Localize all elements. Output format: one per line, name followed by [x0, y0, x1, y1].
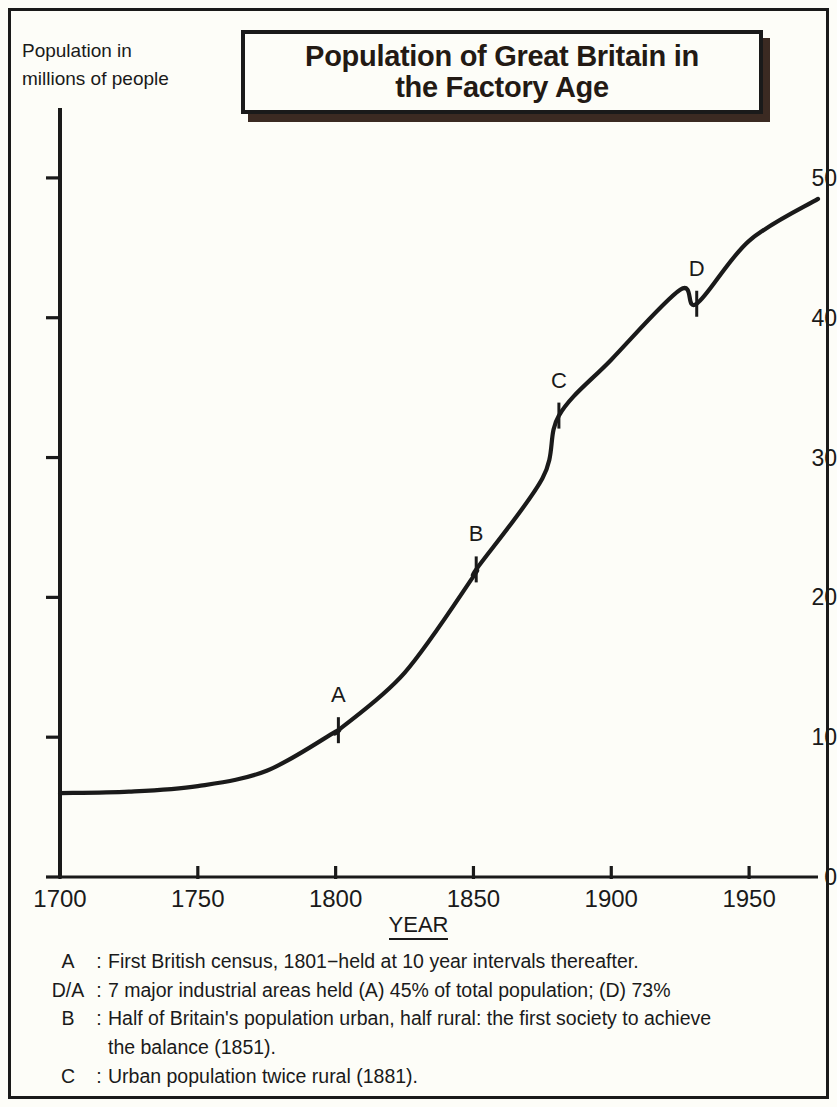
y-axis-ticks [46, 178, 60, 877]
note-text: First British census, 1801−held at 10 ye… [108, 948, 816, 976]
x-axis-tick-label: 1950 [704, 885, 794, 913]
note-key: A [46, 948, 90, 976]
x-axis-tick-label: 1700 [15, 885, 105, 913]
population-curve [60, 199, 818, 793]
y-axis-tick-label: 40 [789, 305, 837, 332]
y-axis-tick-label: 30 [789, 445, 837, 472]
annotation-label-c: C [544, 368, 574, 394]
x-axis-tick-label: 1900 [566, 885, 656, 913]
y-axis-tick-label: 50 [789, 165, 837, 192]
annotation-label-a: A [323, 682, 353, 708]
note-key: B [46, 1005, 90, 1033]
x-axis-tick-label: 1850 [428, 885, 518, 913]
note-text: the balance (1851). [108, 1034, 816, 1062]
note-colon: : [90, 1005, 108, 1033]
x-axis-title: YEAR [0, 912, 837, 938]
note-row: A:First British census, 1801−held at 10 … [46, 948, 816, 976]
x-axis-tick-label: 1800 [291, 885, 381, 913]
note-colon: : [90, 948, 108, 976]
chart-notes: A:First British census, 1801−held at 10 … [46, 948, 816, 1091]
population-line-chart [0, 0, 837, 940]
note-key: C [46, 1063, 90, 1091]
note-text: 7 major industrial areas held (A) 45% of… [108, 977, 816, 1005]
note-colon: : [90, 977, 108, 1005]
note-key: D/A [46, 977, 90, 1005]
annotation-label-d: D [682, 256, 712, 282]
note-colon: : [90, 1063, 108, 1091]
note-row: D/A:7 major industrial areas held (A) 45… [46, 977, 816, 1005]
note-text: Urban population twice rural (1881). [108, 1063, 816, 1091]
note-row: the balance (1851). [46, 1034, 816, 1062]
y-axis-tick-label: 10 [789, 724, 837, 751]
y-axis-tick-label: 0 [789, 864, 837, 891]
chart-page: Population of Great Britain in the Facto… [0, 0, 837, 1107]
note-text: Half of Britain's population urban, half… [108, 1005, 816, 1033]
x-axis-title-text: YEAR [389, 912, 449, 940]
annotation-label-b: B [461, 521, 491, 547]
axes [60, 108, 818, 877]
note-row: B:Half of Britain's population urban, ha… [46, 1005, 816, 1033]
x-axis-tick-label: 1750 [153, 885, 243, 913]
plot-area: 01020304050 170017501800185019001950 ABC… [0, 0, 837, 940]
note-row: C:Urban population twice rural (1881). [46, 1063, 816, 1091]
y-axis-tick-label: 20 [789, 584, 837, 611]
